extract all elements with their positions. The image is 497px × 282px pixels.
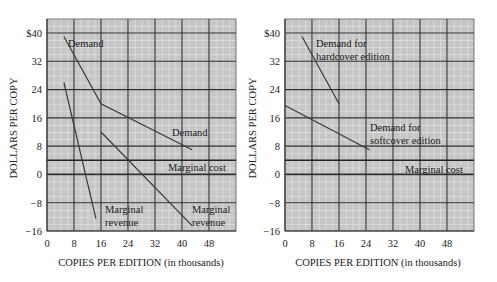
- right-label-hardcover-line2: hardcover edition: [316, 51, 391, 62]
- svg-text:8: 8: [309, 238, 314, 249]
- svg-text:16: 16: [32, 113, 43, 124]
- right-label-softcover-line1: Demand for: [370, 122, 421, 133]
- left-label-mr1-line2: revenue: [105, 217, 139, 228]
- svg-text:40: 40: [415, 238, 426, 249]
- right-chart: Demand for hardcover edition Demand for …: [247, 19, 474, 269]
- svg-text:32: 32: [270, 56, 281, 67]
- left-label-marginal-cost: Marginal cost: [168, 162, 226, 173]
- svg-text:8: 8: [275, 141, 280, 152]
- svg-text:−8: −8: [269, 198, 280, 209]
- svg-text:32: 32: [32, 56, 43, 67]
- svg-text:16: 16: [96, 238, 107, 249]
- right-y-axis-label: DOLLARS PER COPY: [247, 77, 258, 178]
- left-label-demand-top: Demand: [68, 38, 104, 49]
- right-x-axis-label: COPIES PER EDITION (in thousands): [295, 257, 461, 269]
- left-label-mr2-line2: revenue: [192, 217, 226, 228]
- left-plot-area: [47, 19, 236, 231]
- svg-text:16: 16: [334, 238, 345, 249]
- svg-text:24: 24: [361, 238, 372, 249]
- svg-text:48: 48: [204, 238, 215, 249]
- svg-text:−16: −16: [264, 226, 280, 237]
- svg-text:24: 24: [270, 84, 281, 95]
- svg-text:8: 8: [37, 141, 42, 152]
- svg-text:0: 0: [44, 238, 49, 249]
- right-y-ticks: $40 32 24 16 8 0 −8 −16: [264, 28, 281, 237]
- left-y-axis-label: DOLLARS PER COPY: [8, 77, 19, 178]
- right-label-marginal-cost: Marginal cost: [405, 164, 463, 175]
- svg-text:0: 0: [37, 169, 42, 180]
- svg-text:24: 24: [32, 84, 43, 95]
- svg-text:32: 32: [388, 238, 399, 249]
- svg-text:24: 24: [123, 238, 134, 249]
- svg-text:48: 48: [442, 238, 453, 249]
- left-label-mr2-line1: Marginal: [192, 204, 230, 215]
- svg-text:0: 0: [282, 238, 287, 249]
- svg-text:0: 0: [275, 169, 280, 180]
- svg-text:−8: −8: [31, 198, 42, 209]
- svg-text:8: 8: [71, 238, 76, 249]
- svg-text:$40: $40: [264, 28, 280, 39]
- left-label-demand-right: Demand: [172, 127, 208, 138]
- chart-canvas: Demand Demand Marginal cost Marginal rev…: [0, 0, 497, 282]
- right-label-softcover-line2: softcover edition: [370, 135, 442, 146]
- svg-text:40: 40: [177, 238, 188, 249]
- left-label-mr1-line1: Marginal: [105, 204, 143, 215]
- right-label-hardcover-line1: Demand for: [316, 38, 367, 49]
- svg-text:$40: $40: [26, 28, 42, 39]
- svg-text:32: 32: [150, 238, 161, 249]
- left-x-axis-label: COPIES PER EDITION (in thousands): [58, 257, 224, 269]
- svg-text:−16: −16: [26, 226, 42, 237]
- left-chart: Demand Demand Marginal cost Marginal rev…: [8, 19, 236, 269]
- left-y-ticks: $40 32 24 16 8 0 −8 −16: [26, 28, 43, 237]
- right-x-ticks: 0 8 16 24 32 40 48: [282, 238, 452, 249]
- svg-text:16: 16: [270, 113, 281, 124]
- left-x-ticks: 0 8 16 24 32 40 48: [44, 238, 214, 249]
